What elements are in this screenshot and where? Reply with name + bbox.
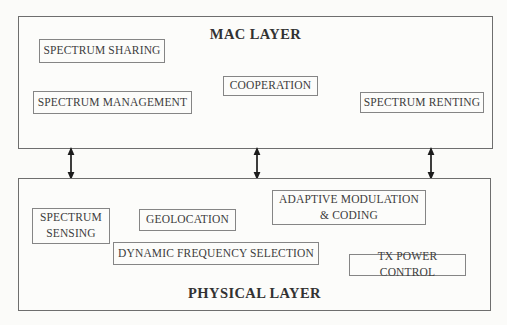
bidirectional-arrow-left bbox=[64, 147, 78, 180]
spectrum-sharing-box: SPECTRUM SHARING bbox=[39, 39, 165, 63]
adaptive-modulation-coding-box: ADAPTIVE MODULATION & CODING bbox=[272, 190, 426, 225]
geolocation-box: GEOLOCATION bbox=[139, 209, 236, 231]
tx-power-control-box: TX POWER CONTROL bbox=[349, 254, 466, 276]
protocol-stack-diagram: MAC LAYER SPECTRUM SHARING SPECTRUM MANA… bbox=[0, 0, 507, 325]
spectrum-sensing-box: SPECTRUM SENSING bbox=[32, 208, 110, 244]
spectrum-renting-box: SPECTRUM RENTING bbox=[360, 92, 484, 113]
bidirectional-arrow-right bbox=[424, 147, 438, 180]
dynamic-frequency-selection-box: DYNAMIC FREQUENCY SELECTION bbox=[113, 242, 319, 265]
bidirectional-arrow-center bbox=[250, 147, 264, 180]
physical-layer-container: PHYSICAL LAYER SPECTRUM SENSING GEOLOCAT… bbox=[18, 178, 491, 311]
cooperation-box: COOPERATION bbox=[223, 76, 318, 96]
physical-layer-title: PHYSICAL LAYER bbox=[19, 285, 490, 302]
mac-layer-container: MAC LAYER SPECTRUM SHARING SPECTRUM MANA… bbox=[18, 16, 493, 149]
spectrum-management-box: SPECTRUM MANAGEMENT bbox=[33, 91, 192, 114]
